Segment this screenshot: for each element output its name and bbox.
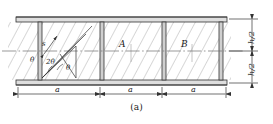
angle-label-two-theta: 2θ bbox=[46, 59, 55, 66]
spacing-label-s: s bbox=[42, 41, 46, 48]
height-label-h-over-2-upper: h/2 bbox=[248, 31, 256, 44]
figure-caption: (a) bbox=[0, 102, 273, 112]
top-flange bbox=[16, 17, 227, 22]
width-label-a-3: a bbox=[191, 86, 196, 94]
height-label-h-over-2-lower: h/2 bbox=[248, 63, 256, 76]
angle-label-theta-left: θ bbox=[30, 57, 34, 64]
width-label-a-2: a bbox=[128, 86, 133, 94]
width-label-a-1: a bbox=[55, 86, 60, 94]
girder-web-panel-figure: A B θ 2θ θ s a a a h/2 h/2 (a) bbox=[0, 0, 273, 124]
region-label-b: B bbox=[181, 40, 188, 49]
region-label-a: A bbox=[119, 40, 126, 49]
angle-label-theta-right: θ bbox=[66, 65, 70, 72]
